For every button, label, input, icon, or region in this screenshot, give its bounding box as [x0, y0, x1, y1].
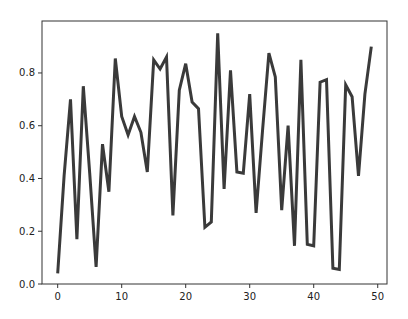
y-tick-label: 0.6 — [19, 120, 35, 131]
x-tick-label: 10 — [115, 291, 128, 302]
y-tick-label: 0.2 — [19, 226, 35, 237]
x-tick-label: 0 — [54, 291, 60, 302]
y-tick-label: 0.8 — [19, 67, 35, 78]
x-tick-label: 20 — [179, 291, 192, 302]
x-tick-label: 50 — [371, 291, 384, 302]
line-chart: 01020304050 0.00.20.40.60.8 — [0, 0, 408, 319]
y-axis-ticks: 0.00.20.40.60.8 — [19, 67, 42, 289]
x-tick-label: 30 — [243, 291, 256, 302]
y-tick-label: 0.0 — [19, 279, 35, 290]
x-axis-ticks: 01020304050 — [54, 284, 384, 302]
y-tick-label: 0.4 — [19, 173, 35, 184]
x-tick-label: 40 — [307, 291, 320, 302]
